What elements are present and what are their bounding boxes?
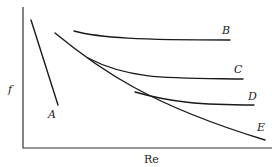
curve-e: [55, 33, 265, 140]
friction-factor-diagram: f A B C D E Re: [0, 0, 272, 167]
curve-d: [135, 92, 254, 105]
x-axis-label: Re: [144, 153, 159, 166]
y-axis-label: f: [7, 83, 14, 96]
curve-label-a: A: [47, 108, 56, 121]
curve-a: [31, 20, 58, 105]
axes: [23, 7, 272, 148]
curve-label-b: B: [221, 24, 230, 37]
curve-b: [74, 31, 230, 40]
curve-label-c: C: [234, 63, 243, 76]
curve-c: [88, 58, 243, 79]
curve-label-d: D: [247, 90, 257, 103]
curve-label-e: E: [256, 121, 265, 134]
